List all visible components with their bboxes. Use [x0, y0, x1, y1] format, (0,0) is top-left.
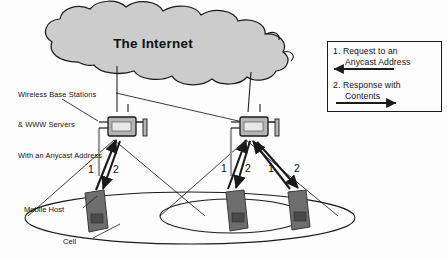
- flow-label-mid-up: 1: [221, 162, 227, 174]
- legend-item-2-line-2: Contents: [345, 91, 380, 101]
- annotation-line-1: Wireless Base Stations: [18, 90, 102, 100]
- flow-label-mid-down: 2: [245, 162, 251, 174]
- arrow-right-down: [257, 142, 298, 188]
- flow-label-right-down: 2: [294, 162, 300, 174]
- cell-label: Cell: [63, 237, 76, 246]
- legend-item-2-line-1: 2. Response with: [333, 80, 401, 90]
- cloud-label: The Internet: [0, 36, 306, 51]
- legend-item-1-line-1: 1. Request to an: [333, 46, 398, 56]
- legend-box: 1. Request to an Anycast Address 2. Resp…: [327, 41, 442, 112]
- annotation-line-3: With an Anycast Address: [18, 151, 102, 161]
- mobile-host-middle: [226, 190, 248, 231]
- flow-label-left-up: 1: [88, 163, 94, 175]
- mobile-host-right: [288, 190, 310, 230]
- mobile-host-label: Mobile Host: [24, 205, 64, 214]
- legend-item-2-number: 2.: [333, 80, 340, 90]
- legend-item-2-text: Response with: [343, 80, 401, 90]
- legend-item-1-text: Request to an: [343, 46, 398, 56]
- legend-item-1-line-2: Anycast Address: [345, 57, 411, 67]
- flow-label-right-up: 1: [268, 162, 274, 174]
- flow-label-left-down: 2: [113, 163, 119, 175]
- legend-item-1-number: 1.: [333, 46, 340, 56]
- annotation-line-2: & WWW Servers: [18, 120, 102, 130]
- diagram-canvas: The Internet Wireless Base Stations & WW…: [0, 0, 447, 260]
